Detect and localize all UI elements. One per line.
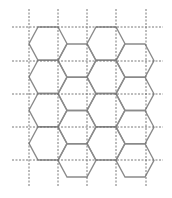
hexagon-grid-diagram [0, 0, 172, 198]
dashed-grid [12, 9, 163, 186]
hexagon-tiling [29, 27, 154, 177]
